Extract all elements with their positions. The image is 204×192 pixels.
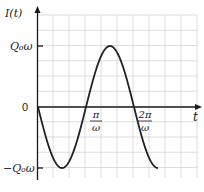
y-tick-label-neg: −Q₀ω [3, 162, 35, 175]
y-tick-label-zero: 0 [22, 101, 28, 113]
x-tick-label-pi-over-omega: π ω [90, 109, 102, 133]
y-axis-arrow-icon [35, 6, 41, 13]
x-tick1-numerator: π [92, 109, 100, 120]
x-tick2-denominator: ω [141, 122, 149, 133]
x-tick1-denominator: ω [92, 122, 100, 133]
y-axis-label: I(t) [4, 7, 22, 20]
y-tick-label-pos: Q₀ω [10, 40, 32, 53]
current-vs-time-chart: I(t) t Q₀ω 0 −Q₀ω π ω 2π ω [0, 0, 204, 192]
x-axis-label: t [193, 110, 198, 124]
x-tick2-numerator: 2π [138, 109, 152, 120]
grid [37, 15, 197, 178]
